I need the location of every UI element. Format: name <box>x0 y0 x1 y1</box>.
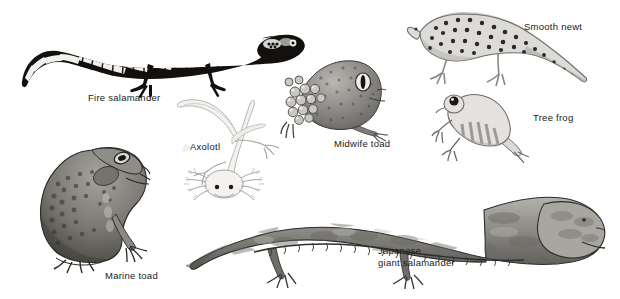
marine-toad-hind-foot <box>54 260 94 273</box>
label-axolotl: Axolotl <box>190 141 220 153</box>
smooth-newt-eye <box>415 28 418 31</box>
amphibians-illustration-plate: Fire salamander <box>0 0 620 299</box>
jgs-eye <box>582 218 586 222</box>
figure-fire-salamander <box>20 8 312 96</box>
jgs-hind-leg <box>268 248 284 279</box>
tree-frog-eye <box>449 96 458 105</box>
label-marine-toad: Marine toad <box>105 270 158 282</box>
figure-tree-frog <box>432 90 530 164</box>
label-japanese-giant-salamander: Japanese giant salamander <box>378 245 478 268</box>
figure-smooth-newt <box>406 6 590 90</box>
label-smooth-newt: Smooth newt <box>524 21 582 33</box>
figure-marine-toad <box>30 140 162 276</box>
label-fire-salamander: Fire salamander <box>88 92 160 104</box>
label-jgs-line1: Japanese <box>378 245 421 256</box>
axolotl-eye-left <box>215 185 219 189</box>
label-tree-frog: Tree frog <box>533 112 573 124</box>
smooth-newt-head <box>407 27 420 39</box>
figure-japanese-giant-salamander <box>184 190 608 290</box>
label-midwife-toad: Midwife toad <box>334 138 390 150</box>
fire-salamander-body <box>22 36 301 88</box>
label-jgs-line2: giant salamander <box>378 257 455 268</box>
axolotl-eye-right <box>229 185 233 189</box>
